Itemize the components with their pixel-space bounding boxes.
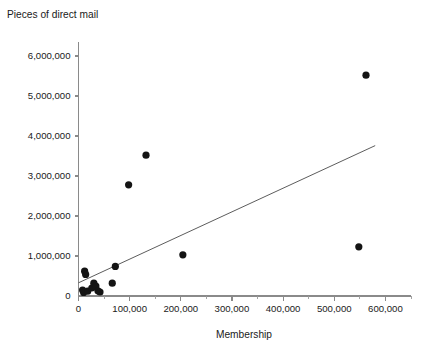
y-axis-tick-label: 1,000,000 bbox=[28, 250, 71, 261]
y-axis-tick-label: 0 bbox=[65, 290, 70, 301]
scatter-chart: 01,000,0002,000,0003,000,0004,000,0005,0… bbox=[0, 0, 423, 352]
data-point bbox=[355, 243, 362, 250]
y-axis-tick-label: 3,000,000 bbox=[28, 170, 71, 181]
x-axis-tick-label: 300,000 bbox=[215, 303, 250, 314]
chart-canvas: 01,000,0002,000,0003,000,0004,000,0005,0… bbox=[0, 0, 423, 352]
data-point bbox=[96, 288, 103, 295]
x-axis-tick-label: 0 bbox=[76, 303, 81, 314]
data-point bbox=[125, 181, 132, 188]
y-axis-title: Pieces of direct mail bbox=[7, 9, 98, 20]
x-axis-tick-label: 500,000 bbox=[317, 303, 352, 314]
y-axis-tick-label: 4,000,000 bbox=[28, 130, 71, 141]
data-point bbox=[362, 72, 369, 79]
data-point bbox=[112, 263, 119, 270]
x-axis-tick-label: 400,000 bbox=[266, 303, 301, 314]
x-axis-tick-label: 200,000 bbox=[163, 303, 198, 314]
y-axis-tick-label: 6,000,000 bbox=[28, 50, 71, 61]
y-axis-tick-label: 2,000,000 bbox=[28, 210, 71, 221]
data-point bbox=[179, 251, 186, 258]
x-axis-title: Membership bbox=[216, 329, 272, 340]
x-axis-tick-label: 600,000 bbox=[368, 303, 403, 314]
x-axis-tick-label: 100,000 bbox=[112, 303, 147, 314]
data-point bbox=[109, 280, 116, 287]
y-axis-tick-label: 5,000,000 bbox=[28, 90, 71, 101]
data-point bbox=[82, 271, 89, 278]
data-point bbox=[142, 152, 149, 159]
